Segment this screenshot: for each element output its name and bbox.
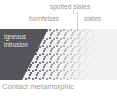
callout-label-spotted-slates: spotted slates: [50, 3, 90, 10]
callout-label-hornfelses: hornfelses: [29, 15, 59, 22]
igneous-intrusion-label-line1: igneous: [4, 33, 26, 40]
igneous-intrusion-label-line2: intrusion: [4, 41, 28, 48]
figure-caption: Contact metamorphic: [2, 82, 74, 91]
diagram-panel: igneous intrusion: [0, 29, 117, 80]
contact-metamorphism-figure: spotted slates hornfelses slates igneous…: [0, 0, 117, 96]
igneous-intrusion-label: igneous intrusion: [4, 33, 28, 48]
callout-label-slates: slates: [84, 15, 101, 22]
leader-line-spotted-slates: [73, 10, 74, 14]
leader-line-zone-divider: [77, 12, 78, 29]
